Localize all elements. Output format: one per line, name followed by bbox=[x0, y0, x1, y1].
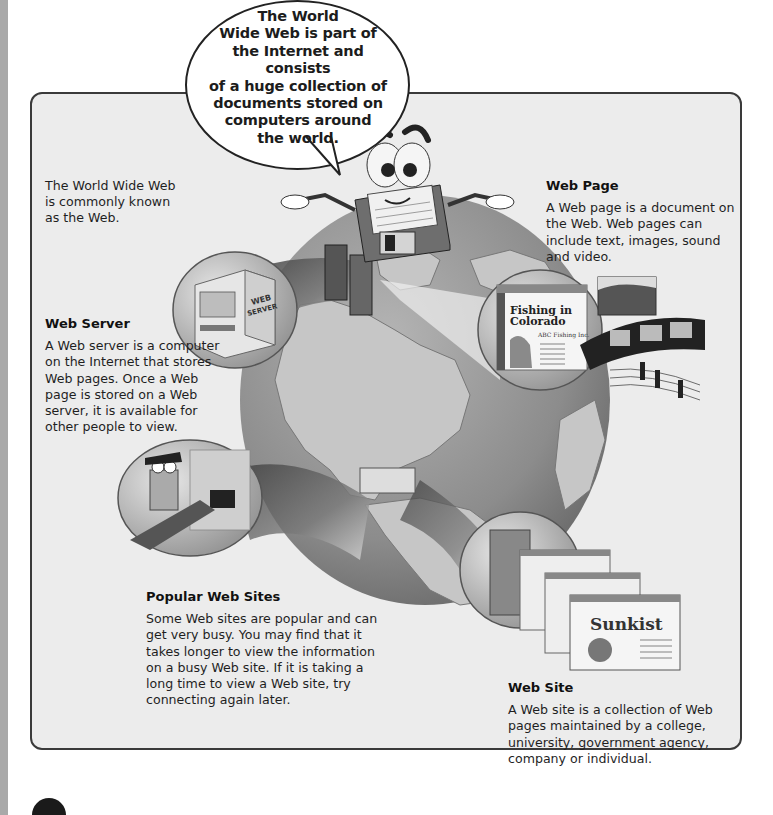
web-page-body: A Web page is a document on the Web. Web… bbox=[546, 200, 736, 265]
popular-web-sites-heading: Popular Web Sites bbox=[146, 589, 378, 605]
web-server-section: Web Server A Web server is a computer on… bbox=[45, 316, 225, 435]
web-site-heading: Web Site bbox=[508, 680, 740, 696]
web-server-body: A Web server is a computer on the Intern… bbox=[45, 338, 225, 435]
popular-web-sites-body: Some Web sites are popular and can get v… bbox=[146, 611, 378, 708]
speech-bubble-text: The World Wide Web is part of the Intern… bbox=[200, 8, 396, 147]
web-site-body: A Web site is a collection of Web pages … bbox=[508, 702, 740, 767]
svg-text:Colorado: Colorado bbox=[510, 315, 566, 328]
web-page-section: Web Page A Web page is a document on the… bbox=[546, 178, 736, 265]
svg-text:Sunkist: Sunkist bbox=[590, 614, 663, 634]
web-site-section: Web Site A Web site is a collection of W… bbox=[508, 680, 740, 767]
web-server-heading: Web Server bbox=[45, 316, 225, 332]
svg-text:ABC Fishing Inc.: ABC Fishing Inc. bbox=[537, 331, 590, 339]
intro-text: The World Wide Web is commonly known as … bbox=[45, 178, 185, 227]
web-page-heading: Web Page bbox=[546, 178, 736, 194]
web-site-icon: Sunkist bbox=[460, 512, 680, 670]
web-page-icon: Fishing in Colorado ABC Fishing Inc. bbox=[478, 270, 602, 390]
busy-site-icon bbox=[118, 440, 262, 556]
intro-paragraph: The World Wide Web is commonly known as … bbox=[45, 178, 185, 227]
popular-web-sites-section: Popular Web Sites Some Web sites are pop… bbox=[146, 589, 378, 708]
